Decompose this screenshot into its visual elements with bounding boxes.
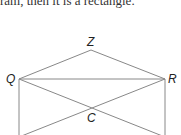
label-c: C <box>87 111 96 125</box>
segment-qz <box>19 50 91 79</box>
label-r: R <box>168 72 177 86</box>
label-z: Z <box>86 35 95 49</box>
geometry-diagram: Z Q R C <box>0 0 181 135</box>
label-q: Q <box>6 72 15 86</box>
segment-zr <box>91 50 165 79</box>
